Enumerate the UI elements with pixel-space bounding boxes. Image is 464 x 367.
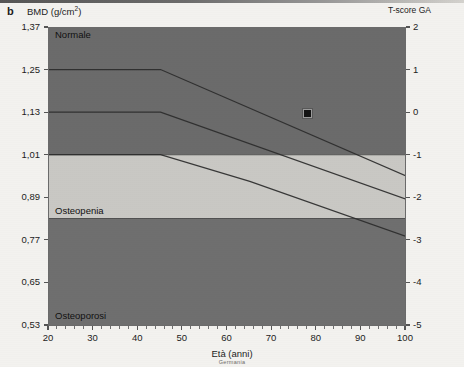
scan-artifact-strip: [0, 0, 464, 3]
right-tick-mark-3: [406, 154, 410, 155]
panel-letter: b: [7, 5, 14, 17]
x-tick-minor: [208, 326, 209, 329]
right-tick-mark-4: [406, 197, 410, 198]
right-tick-mark-5: [406, 239, 410, 240]
x-tick-mark-7: [360, 326, 361, 330]
x-tick-mark-4: [226, 326, 227, 330]
x-tick-minor: [65, 326, 66, 329]
x-tick-label-30: 30: [73, 332, 113, 343]
x-tick-minor: [324, 326, 325, 329]
x-tick-minor: [155, 326, 156, 329]
x-tick-minor: [110, 326, 111, 329]
x-tick-minor: [235, 326, 236, 329]
x-tick-label-80: 80: [296, 332, 336, 343]
x-tick-mark-3: [181, 326, 182, 330]
right-tick-mark-6: [406, 282, 410, 283]
right-tick-mark-0: [406, 26, 410, 27]
band-osteopenia: [49, 155, 406, 219]
right-tick-mark-7: [406, 324, 410, 325]
right-tick-label-neg5: -5: [413, 319, 421, 330]
x-tick-label-40: 40: [117, 332, 157, 343]
y-tick-label-1-13: 1,13: [2, 106, 40, 117]
y-tick-mark-4: [44, 154, 48, 155]
x-axis-title: Età (anni): [0, 348, 464, 359]
right-tick-mark-2: [406, 112, 410, 113]
y-tick-mark-7: [44, 26, 48, 27]
x-tick-minor: [280, 326, 281, 329]
right-tick-label-neg2: -2: [413, 191, 421, 202]
x-axis-subtitle: Germania: [0, 359, 464, 365]
x-tick-mark-8: [404, 326, 405, 330]
x-tick-mark-1: [92, 326, 93, 330]
x-tick-minor: [288, 326, 289, 329]
plot-svg: [49, 27, 406, 325]
x-tick-minor: [369, 326, 370, 329]
y-axis-title: BMD (g/cm2): [27, 5, 81, 17]
x-tick-minor: [56, 326, 57, 329]
x-tick-label-50: 50: [162, 332, 202, 343]
x-tick-minor: [172, 326, 173, 329]
x-tick-minor: [396, 326, 397, 329]
x-tick-minor: [387, 326, 388, 329]
right-tick-mark-1: [406, 69, 410, 70]
right-tick-label-2: 2: [413, 21, 418, 32]
y-tick-label-1-37: 1,37: [2, 21, 40, 32]
x-tick-minor: [83, 326, 84, 329]
figure-panel: b BMD (g/cm2) T-score GA Normale Osteope…: [0, 0, 464, 367]
y-tick-mark-3: [44, 197, 48, 198]
x-tick-minor: [244, 326, 245, 329]
x-tick-minor: [262, 326, 263, 329]
right-axis-title: T-score GA: [388, 5, 431, 15]
right-tick-label-0: 0: [413, 106, 418, 117]
right-tick-label-1: 1: [413, 64, 418, 75]
x-tick-minor: [253, 326, 254, 329]
x-tick-minor: [119, 326, 120, 329]
y-tick-mark-0: [44, 324, 48, 325]
band-osteoporosi: [49, 219, 406, 325]
x-tick-minor: [297, 326, 298, 329]
y-tick-label-1-01: 1,01: [2, 149, 40, 160]
x-tick-minor: [199, 326, 200, 329]
x-tick-minor: [101, 326, 102, 329]
x-tick-mark-6: [315, 326, 316, 330]
x-tick-mark-5: [271, 326, 272, 330]
x-tick-label-60: 60: [207, 332, 247, 343]
right-tick-label-neg4: -4: [413, 276, 421, 287]
x-tick-label-90: 90: [340, 332, 380, 343]
x-tick-minor: [333, 326, 334, 329]
x-tick-minor: [217, 326, 218, 329]
x-tick-label-70: 70: [251, 332, 291, 343]
right-tick-label-neg1: -1: [413, 149, 421, 160]
x-tick-mark-0: [47, 326, 48, 330]
y-tick-mark-6: [44, 69, 48, 70]
x-tick-minor: [378, 326, 379, 329]
y-axis-title-paren: ): [78, 6, 81, 17]
y-tick-label-0-77: 0,77: [2, 234, 40, 245]
y-tick-mark-1: [44, 282, 48, 283]
y-tick-mark-2: [44, 239, 48, 240]
y-tick-mark-5: [44, 112, 48, 113]
x-tick-minor: [342, 326, 343, 329]
y-tick-label-0-53: 0,53: [2, 319, 40, 330]
x-tick-minor: [128, 326, 129, 329]
x-tick-minor: [190, 326, 191, 329]
x-tick-minor: [146, 326, 147, 329]
x-tick-minor: [351, 326, 352, 329]
x-tick-minor: [164, 326, 165, 329]
y-tick-label-0-89: 0,89: [2, 191, 40, 202]
x-tick-mark-2: [137, 326, 138, 330]
x-tick-label-20: 20: [28, 332, 68, 343]
x-tick-minor: [306, 326, 307, 329]
x-tick-label-100: 100: [385, 332, 425, 343]
y-tick-label-1-25: 1,25: [2, 64, 40, 75]
y-tick-label-0-65: 0,65: [2, 276, 40, 287]
x-tick-minor: [74, 326, 75, 329]
right-tick-label-neg3: -3: [413, 234, 421, 245]
plot-area: Normale Osteopenia Osteoporosi: [48, 27, 406, 326]
patient-data-point[interactable]: [303, 109, 312, 118]
y-axis-title-text: BMD (g/cm: [27, 6, 75, 17]
